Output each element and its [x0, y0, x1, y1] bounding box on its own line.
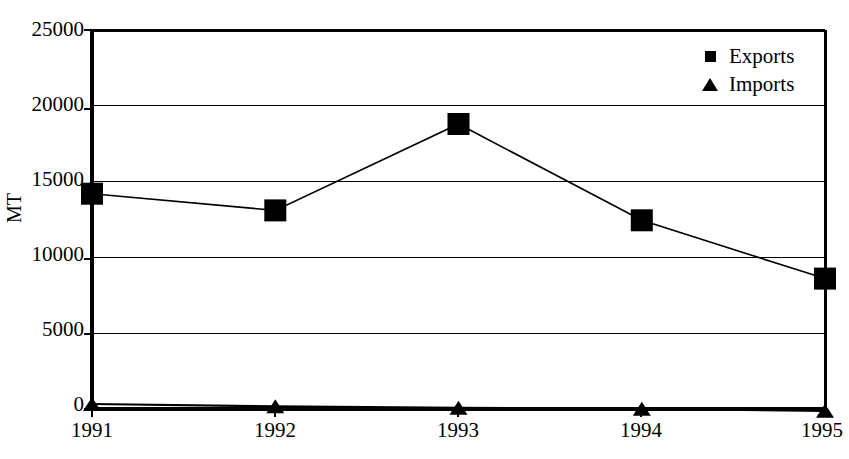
legend-label: Imports	[729, 70, 794, 98]
chart-legend: Exports Imports	[700, 42, 794, 98]
square-marker-icon	[700, 51, 720, 62]
line-chart: MT 25000 20000 15000 10000 5000 0	[0, 0, 849, 459]
legend-item-imports: Imports	[700, 70, 794, 98]
x-tick-label: 1992	[215, 418, 335, 442]
x-tick-label: 1995	[762, 418, 849, 442]
x-tick-label: 1993	[398, 418, 518, 442]
triangle-marker-icon	[700, 78, 720, 91]
legend-label: Exports	[729, 42, 794, 70]
x-tick-label: 1991	[32, 418, 152, 442]
x-tick-label: 1994	[581, 418, 701, 442]
legend-item-exports: Exports	[700, 42, 794, 70]
